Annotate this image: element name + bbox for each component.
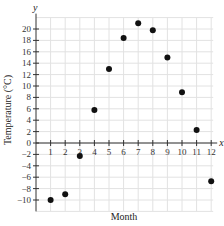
svg-text:20: 20 [22, 24, 32, 34]
axes [33, 14, 217, 212]
svg-text:5: 5 [107, 147, 112, 157]
scatter-chart: 123456789101112−10−8−6−4−202468101214161… [0, 0, 224, 226]
data-point [135, 20, 141, 26]
x-axis-label: Month [111, 211, 138, 222]
data-point [150, 27, 156, 33]
data-point [121, 35, 127, 41]
svg-text:18: 18 [22, 35, 32, 45]
svg-text:10: 10 [178, 147, 188, 157]
data-point [62, 191, 68, 197]
grid [36, 18, 213, 212]
svg-text:4: 4 [27, 115, 32, 125]
data-point [91, 107, 97, 113]
svg-text:−10: −10 [17, 195, 32, 205]
data-point [164, 55, 170, 61]
svg-text:8: 8 [151, 147, 156, 157]
tick-labels: 123456789101112−10−8−6−4−202468101214161… [17, 24, 216, 205]
svg-text:2: 2 [63, 147, 68, 157]
data-point [208, 178, 214, 184]
data-points [48, 20, 215, 203]
svg-text:9: 9 [165, 147, 170, 157]
data-point [106, 66, 112, 72]
svg-text:4: 4 [92, 147, 97, 157]
svg-text:−2: −2 [21, 149, 31, 159]
svg-text:14: 14 [22, 58, 32, 68]
data-point [194, 127, 200, 133]
svg-text:0: 0 [27, 138, 32, 148]
svg-text:−8: −8 [21, 184, 31, 194]
svg-text:11: 11 [192, 147, 201, 157]
y-axis-letter: y [32, 2, 38, 13]
svg-text:1: 1 [48, 147, 53, 157]
svg-text:8: 8 [27, 92, 32, 102]
svg-text:12: 12 [207, 147, 216, 157]
data-point [77, 153, 83, 159]
svg-text:2: 2 [27, 127, 32, 137]
data-point [48, 197, 54, 203]
svg-text:16: 16 [22, 47, 32, 57]
svg-text:7: 7 [136, 147, 141, 157]
svg-text:10: 10 [22, 81, 32, 91]
svg-text:6: 6 [121, 147, 126, 157]
svg-text:−6: −6 [21, 172, 31, 182]
svg-text:12: 12 [22, 70, 31, 80]
svg-text:−4: −4 [21, 161, 31, 171]
svg-text:6: 6 [27, 104, 32, 114]
x-axis-letter: x [218, 137, 224, 148]
data-point [179, 89, 185, 95]
y-axis-label: Temperature (°C) [2, 75, 14, 145]
